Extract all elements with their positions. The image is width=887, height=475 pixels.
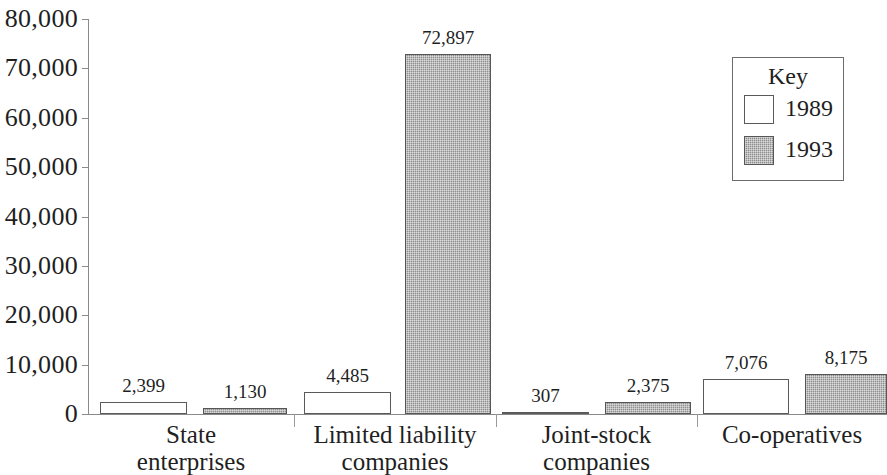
category-label-line: Joint-stock	[496, 421, 697, 448]
bar-1989-limited-liability-companies	[304, 392, 391, 414]
x-axis-line	[88, 414, 887, 415]
bar-1993-state-enterprises	[203, 408, 287, 414]
category-label-co-operatives: Co-operatives	[697, 421, 887, 448]
y-axis-tick	[82, 266, 89, 267]
bar-value-label: 2,375	[605, 376, 691, 395]
legend-key-box: Key 1989 1993	[732, 57, 844, 181]
bar-value-label: 307	[502, 386, 589, 405]
y-axis-tick	[82, 118, 89, 119]
category-label-limited-liability-companies: Limited liabilitycompanies	[294, 421, 496, 475]
legend-row-1993: 1993	[733, 132, 843, 170]
y-axis-tick	[82, 217, 89, 218]
y-axis-tick-label: 80,000	[0, 6, 78, 32]
bar-1989-state-enterprises	[100, 402, 187, 414]
y-axis-tick-label: 60,000	[0, 105, 78, 131]
bar-1993-joint-stock-companies	[605, 402, 691, 414]
legend-swatch-1993	[744, 136, 774, 165]
bar-value-label: 7,076	[703, 353, 789, 372]
category-label-line: Limited liability	[294, 421, 496, 448]
legend-row-1989: 1989	[733, 91, 843, 129]
y-axis-tick	[82, 19, 89, 20]
bar-1989-joint-stock-companies	[502, 412, 589, 414]
y-axis-tick	[82, 68, 89, 69]
bar-1989-co-operatives	[703, 379, 789, 414]
y-axis-tick-label: 10,000	[0, 352, 78, 378]
y-axis-tick-label: 50,000	[0, 154, 78, 180]
y-axis-tick	[82, 167, 89, 168]
bar-value-label: 1,130	[203, 382, 287, 401]
y-axis-tick	[82, 365, 89, 366]
category-label-line: State	[88, 421, 294, 448]
bar-1993-co-operatives	[805, 374, 887, 414]
category-label-line: Co-operatives	[697, 421, 887, 448]
bar-chart: 010,00020,00030,00040,00050,00060,00070,…	[0, 0, 887, 475]
legend-swatch-1989	[744, 95, 774, 124]
category-label-line: companies	[294, 448, 496, 475]
category-label-state-enterprises: Stateenterprises	[88, 421, 294, 475]
category-label-line: companies	[496, 448, 697, 475]
y-axis-tick-label: 0	[0, 401, 78, 427]
y-axis-tick-label: 70,000	[0, 55, 78, 81]
y-axis-tick-label: 20,000	[0, 302, 78, 328]
bar-value-label: 8,175	[805, 348, 887, 367]
legend-label-1993: 1993	[785, 135, 833, 163]
y-axis-tick-label: 30,000	[0, 253, 78, 279]
y-axis-tick	[82, 315, 89, 316]
legend-label-1989: 1989	[785, 94, 833, 122]
bar-value-label: 4,485	[304, 366, 391, 385]
category-label-line: enterprises	[88, 448, 294, 475]
bar-value-label: 72,897	[405, 28, 491, 47]
legend-title: Key	[733, 64, 843, 88]
bar-value-label: 2,399	[100, 376, 187, 395]
bar-1993-limited-liability-companies	[405, 54, 491, 414]
category-label-joint-stock-companies: Joint-stockcompanies	[496, 421, 697, 475]
y-axis-tick-label: 40,000	[0, 204, 78, 230]
